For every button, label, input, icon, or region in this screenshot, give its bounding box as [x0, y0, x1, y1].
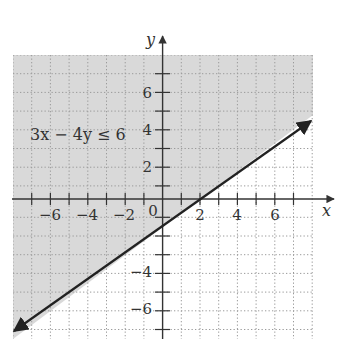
x-tick-label: −2	[113, 206, 135, 224]
inequality-graph: −6 −4 −2 2 4 6 0 6 4 2 −4 −6 x y 3x − 4y…	[0, 0, 350, 339]
inequality-label: 3x − 4y ≤ 6	[30, 125, 126, 144]
x-tick-label: 4	[232, 206, 242, 224]
y-tick-label: 2	[142, 158, 152, 176]
y-tick-label: −4	[130, 263, 152, 281]
x-tick-label: −6	[39, 206, 61, 224]
y-axis-label: y	[145, 30, 156, 49]
y-tick-label: 6	[142, 84, 152, 102]
x-axis-label: x	[322, 201, 331, 220]
y-tick-label: −6	[130, 300, 152, 318]
origin-label: 0	[148, 202, 158, 220]
y-tick-label: 4	[142, 121, 152, 139]
x-tick-label: −4	[76, 206, 98, 224]
x-tick-label: 6	[270, 206, 280, 224]
x-tick-label: 2	[195, 206, 205, 224]
